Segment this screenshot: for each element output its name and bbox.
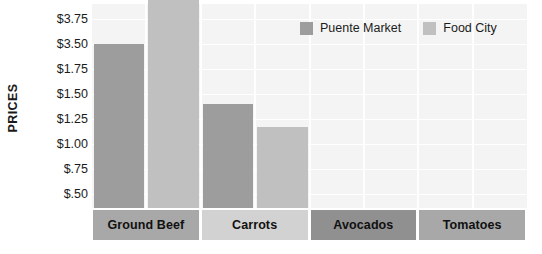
y-tick-label: $3.75 — [30, 12, 88, 26]
category-label: Ground Beef — [107, 218, 184, 232]
price-comparison-bar-chart: PRICES $3.75$3.50$1.75$1.50$1.25$1.00$.7… — [0, 0, 542, 254]
y-tick-label: $.75 — [30, 162, 88, 176]
y-axis-title: PRICES — [0, 0, 26, 215]
legend-swatch-icon — [423, 22, 436, 35]
bar — [148, 0, 198, 208]
y-axis-tick-labels: $3.75$3.50$1.75$1.50$1.25$1.00$.75$.50 — [30, 0, 92, 210]
legend-entry-puente-market: Puente Market — [300, 21, 401, 35]
y-axis-title-label: PRICES — [6, 83, 20, 132]
legend-label: Food City — [443, 21, 497, 35]
y-tick-label: $1.00 — [30, 137, 88, 151]
y-tick-label: $3.50 — [30, 37, 88, 51]
bar — [94, 44, 144, 208]
category-band-tomatoes: Tomatoes — [419, 210, 525, 240]
legend-swatch-icon — [300, 22, 313, 35]
chart-legend: Puente MarketFood City — [300, 21, 497, 35]
bar — [257, 127, 307, 208]
x-axis-category-bands: Ground BeefCarrotsAvocadosTomatoes — [92, 210, 527, 240]
category-label: Tomatoes — [443, 218, 502, 232]
y-tick-label: $1.25 — [30, 112, 88, 126]
category-band-carrots: Carrots — [202, 210, 308, 240]
legend-entry-food-city: Food City — [423, 21, 497, 35]
legend-label: Puente Market — [320, 21, 401, 35]
category-band-ground-beef: Ground Beef — [93, 210, 199, 240]
category-label: Carrots — [232, 218, 277, 232]
category-label: Avocados — [333, 218, 393, 232]
y-tick-label: $1.50 — [30, 87, 88, 101]
bar — [203, 104, 253, 208]
y-tick-label: $1.75 — [30, 62, 88, 76]
category-band-avocados: Avocados — [311, 210, 417, 240]
y-tick-label: $.50 — [30, 187, 88, 201]
